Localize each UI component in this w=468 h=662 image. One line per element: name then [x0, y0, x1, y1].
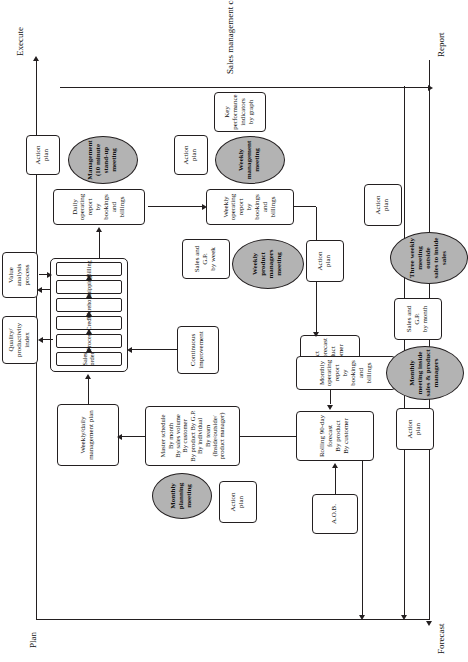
axis-arrow-forecast: [426, 621, 432, 626]
action-plan-standup: Action plan: [26, 135, 60, 175]
meeting-monthly-inside-product: Monthly meeting inside sales & product m…: [386, 346, 464, 400]
edge-forecast-to-master: [240, 436, 296, 437]
edge-aob-to-forecast: [335, 468, 336, 494]
edge-arrow-process-to-daily-report: [96, 227, 102, 232]
meeting-monthly-planning: Monthly planning meeting: [152, 473, 212, 519]
action-plan-management: Action plan: [174, 135, 208, 175]
edge-arrow-aob-to-forecast: [332, 463, 338, 468]
process-step-shipping: Shipping: [56, 280, 122, 294]
process-arrow-2: [86, 329, 92, 334]
process-arrow-4: [86, 293, 92, 298]
edge-arrow-forecast-left-rail: [359, 615, 365, 620]
action-plan-monthly-inside: Action plan: [396, 408, 434, 450]
edge-continuous-to-value: [42, 289, 50, 290]
action-plan-planning: Action plan: [219, 481, 257, 523]
axis-rule-forecast-report: [429, 60, 430, 620]
meeting-weekly-product-managers: Weekly product managers meeting: [232, 239, 304, 289]
axis-label-execute: Execute: [15, 27, 25, 56]
node-value-analysis-process: Value analysis process: [2, 252, 38, 298]
edge-continuous-to-processgroup: [132, 349, 177, 350]
meeting-management-standup: Management (10 minute stand-up meeting: [68, 136, 138, 184]
edge-arrow-continuous-to-value: [37, 287, 42, 293]
axis-rule-right: [60, 87, 430, 88]
process-step-billing: Billing: [56, 262, 122, 276]
edge-arrow-weeklyplan-to-process: [85, 374, 91, 379]
meeting-weekly-management: Weekly management meeting: [215, 136, 285, 184]
edge-weeklyplan-to-process: [88, 378, 89, 404]
action-plan-product-managers: Action plan: [306, 240, 344, 282]
node-rolling-90-day-forecast: Rolling 90-day forecast By product By cu…: [296, 411, 374, 461]
edge-process-to-daily-report: [99, 232, 100, 258]
process-step-process: Process: [56, 334, 122, 348]
process-arrow-3: [86, 311, 92, 316]
node-sales-gp-by-week: Sales and G.P. by week: [182, 239, 230, 279]
process-arrow-5: [86, 275, 92, 280]
edge-arrow-master-to-weeklyplan: [117, 434, 122, 440]
edge-weekly-to-monthly-report-v: [294, 206, 316, 207]
node-quality-productivity-index-2: Quality/ productivity index: [2, 316, 38, 364]
axis-rule-left: [36, 619, 429, 620]
edge-process-to-quality: [43, 339, 53, 340]
node-continuous-improvement: Continuous improvement: [177, 326, 219, 374]
edge-arrow-value-to-process: [47, 272, 52, 278]
edge-arrow-continuous-to-processgroup: [127, 347, 132, 353]
edge-daily-to-weekly-report: [148, 206, 204, 207]
node-aob: A.O.B.: [312, 494, 358, 534]
axis-label-plan: Plan: [28, 632, 38, 648]
edge-arrow-pmforecast-to-forecast: [327, 405, 333, 410]
edge-master-to-weeklyplan: [122, 436, 145, 437]
node-daily-operating-report: Daily operating report by bookings and b…: [53, 189, 145, 225]
node-monthly-operating-report-2: Monthly operating report by bookings and…: [296, 356, 396, 390]
edge-forecast-to-left-rail: [362, 461, 363, 616]
edge-arrow-report-to-forecast-rail: [401, 615, 407, 620]
process-arrow-1: [86, 347, 92, 352]
meeting-three-weekly-outside-inside: Three weekly meeting outside sales to in…: [390, 232, 468, 284]
node-sales-gp-by-month: Sales and G.P. by month: [394, 298, 442, 340]
process-step-warehouse: Warehouse: [56, 298, 122, 312]
axis-arrow-execute: [33, 56, 39, 61]
node-master-schedule: Master schedule By month By sales volume…: [145, 406, 240, 466]
process-step-sales-order: Sales order: [56, 352, 122, 366]
axis-arrow-report: [428, 85, 433, 91]
node-weekly-daily-management-plan: Weekly/daily management plan: [57, 404, 119, 466]
edge-arrow-weekly-to-monthly-report: [313, 332, 319, 337]
node-kpi-graph: Key performance indicators by graph: [214, 92, 266, 132]
axis-label-report: Report: [436, 33, 446, 58]
edge-pmforecast-to-forecast: [330, 389, 331, 404]
action-plan-three-weekly: Action plan: [364, 184, 402, 226]
edge-arrow-process-to-quality: [38, 337, 43, 343]
node-weekly-operating-report: Weekly operating report by bookings and …: [206, 189, 294, 225]
figure-caption: Sales management control system.: [225, 0, 235, 74]
axis-label-forecast: Forecast: [436, 624, 446, 655]
